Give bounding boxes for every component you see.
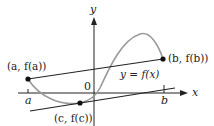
point-c-label: (c, f(c)) — [54, 112, 93, 124]
x-axis-label: x — [192, 86, 199, 99]
y-axis — [91, 17, 97, 126]
tick-b-label: b — [161, 94, 168, 107]
point-c — [77, 100, 82, 105]
tick-a-label: a — [25, 94, 32, 107]
mean-value-theorem-diagram: x y 0 (a, f(a)) (b, f(b)) (c, f(c)) a b — [0, 0, 214, 126]
y-axis-arrow-icon — [91, 17, 97, 25]
curve-label: y = f(x) — [119, 68, 159, 80]
point-b-label: (b, f(b)) — [168, 52, 208, 64]
point-a-label: (a, f(a)) — [7, 60, 46, 72]
y-axis-label: y — [89, 3, 97, 16]
x-axis-arrow-icon — [180, 90, 188, 96]
origin-label: 0 — [84, 80, 91, 93]
point-a — [25, 76, 30, 81]
point-b — [160, 56, 165, 61]
